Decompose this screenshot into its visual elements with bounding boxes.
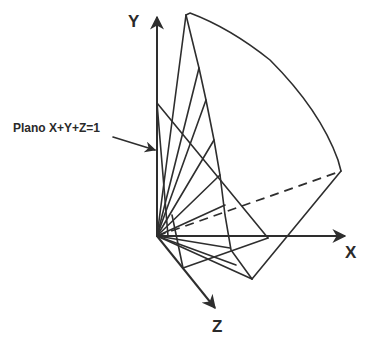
y-axis-label: Y	[128, 12, 140, 31]
x-axis-label: X	[345, 243, 357, 262]
labels-layer: Y X Z Plano X+Y+Z=1	[0, 0, 370, 342]
plane-label: Plano X+Y+Z=1	[13, 121, 100, 135]
z-axis-label: Z	[212, 317, 222, 336]
